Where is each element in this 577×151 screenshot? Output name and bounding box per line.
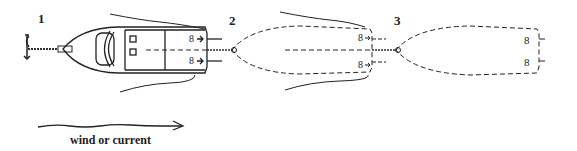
wake-line-bottom bbox=[120, 75, 195, 92]
svg-text:8: 8 bbox=[189, 33, 194, 44]
raft-up-diagram: 8 8 8 8 8 8 bbox=[0, 0, 577, 151]
wake-line-top-2 bbox=[280, 12, 365, 27]
svg-text:8: 8 bbox=[189, 55, 194, 66]
wake-line-bottom-2 bbox=[285, 75, 368, 90]
legend-caption: wind or current bbox=[70, 133, 151, 148]
svg-text:8: 8 bbox=[358, 32, 363, 43]
anchor-icon bbox=[24, 35, 30, 59]
svg-text:8: 8 bbox=[358, 59, 363, 70]
svg-text:8: 8 bbox=[524, 56, 530, 68]
wavy-right-arrow-icon bbox=[38, 121, 183, 130]
step-label-1: 1 bbox=[38, 12, 45, 25]
step-label-3: 3 bbox=[394, 14, 401, 27]
boat-3 bbox=[396, 26, 539, 75]
step-label-2: 2 bbox=[229, 14, 236, 27]
svg-text:8: 8 bbox=[524, 34, 530, 46]
